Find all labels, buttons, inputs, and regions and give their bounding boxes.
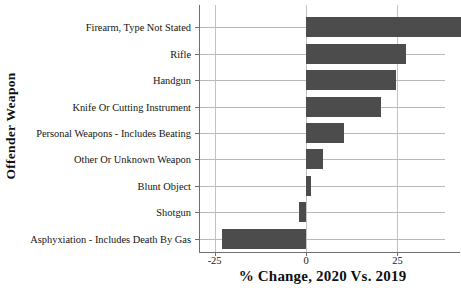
y-axis-tick [195, 159, 200, 160]
y-gridline [200, 186, 445, 187]
category-label: Firearm, Type Not Stated [86, 22, 191, 33]
bar [299, 202, 306, 222]
x-axis-tick-label: -25 [208, 255, 222, 266]
bar [306, 17, 461, 37]
y-axis-tick [195, 107, 200, 108]
category-label: Rifle [170, 48, 191, 59]
x-gridline [215, 5, 216, 252]
category-label: Blunt Object [138, 180, 191, 191]
plot-area: -25025 [200, 14, 445, 252]
category-label: Other Or Unknown Weapon [74, 154, 191, 165]
bar [306, 70, 396, 90]
bar [306, 44, 406, 64]
bar [306, 97, 381, 117]
y-axis-tick [195, 239, 200, 240]
y-axis-tick [195, 54, 200, 55]
y-axis-title: Offender Weapon [0, 0, 22, 252]
x-axis-spine [199, 252, 460, 253]
bar [306, 149, 323, 169]
bar [306, 176, 311, 196]
category-label: Asphyxiation - Includes Death By Gas [30, 233, 191, 244]
category-axis-labels: Firearm, Type Not StatedRifleHandgunKnif… [24, 14, 196, 252]
horizontal-bar-chart: Offender Weapon Firearm, Type Not Stated… [0, 0, 461, 304]
bar [306, 123, 344, 143]
x-axis-tick-label: 0 [303, 255, 308, 266]
x-gridline [397, 5, 398, 252]
y-axis-tick [195, 80, 200, 81]
y-axis-tick [195, 186, 200, 187]
category-label: Handgun [153, 75, 191, 86]
y-axis-title-text: Offender Weapon [3, 72, 19, 179]
y-gridline [200, 212, 445, 213]
y-axis-spine [199, 5, 200, 252]
y-axis-tick [195, 27, 200, 28]
y-axis-tick [195, 212, 200, 213]
category-label: Personal Weapons - Includes Beating [36, 128, 191, 139]
category-label: Knife Or Cutting Instrument [72, 101, 191, 112]
x-axis-tick-label: 25 [392, 255, 403, 266]
bar [222, 229, 306, 249]
category-label: Shotgun [156, 207, 191, 218]
x-axis-title: % Change, 2020 Vs. 2019 [200, 268, 445, 285]
y-axis-tick [195, 133, 200, 134]
